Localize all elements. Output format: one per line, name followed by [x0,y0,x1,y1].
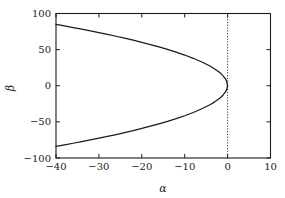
y-tick-label: 50 [38,44,51,55]
x-tick-label: 0 [224,161,230,172]
y-axis-title: β [4,85,17,92]
x-tick-label: −30 [88,161,109,172]
x-tick-label: 10 [264,161,277,172]
y-tick-label: 0 [45,80,51,91]
chart-figure: −40−30−20−10010 −100−50050100 α β [0,0,285,198]
y-tick-label: 100 [32,8,51,19]
x-axis-title: α [159,182,167,195]
y-tick-label: −50 [30,116,51,127]
x-tick-label: −10 [174,161,195,172]
x-tick-label: −20 [131,161,152,172]
chart-canvas: −40−30−20−10010 −100−50050100 α β [0,0,285,198]
y-tick-label: −100 [24,153,51,164]
